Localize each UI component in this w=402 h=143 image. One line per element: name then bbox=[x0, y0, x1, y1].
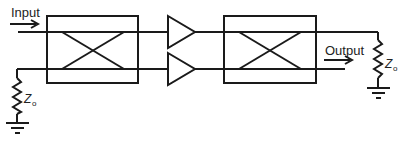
amplifier-top-icon bbox=[168, 16, 195, 48]
termination-right-subscript: o bbox=[393, 64, 398, 73]
termination-left-symbol: Z bbox=[23, 92, 32, 106]
output-label: Output bbox=[325, 43, 364, 58]
termination-right-symbol: Z bbox=[384, 57, 393, 71]
input-label: Input bbox=[11, 5, 40, 20]
resistor-left-icon bbox=[13, 69, 21, 123]
ground-right-icon bbox=[367, 88, 390, 98]
input-arrow-icon bbox=[10, 20, 38, 28]
balanced-amplifier-diagram: Input Output Z o Z o bbox=[0, 0, 402, 143]
termination-left-label: Z o bbox=[23, 92, 37, 108]
amplifier-bottom-icon bbox=[168, 53, 195, 85]
termination-right-label: Z o bbox=[384, 57, 398, 73]
hybrid-coupler-output bbox=[224, 16, 316, 83]
hybrid-coupler-input bbox=[47, 16, 138, 83]
termination-left-subscript: o bbox=[32, 99, 37, 108]
ground-left-icon bbox=[6, 123, 29, 133]
resistor-right-icon bbox=[374, 32, 382, 88]
